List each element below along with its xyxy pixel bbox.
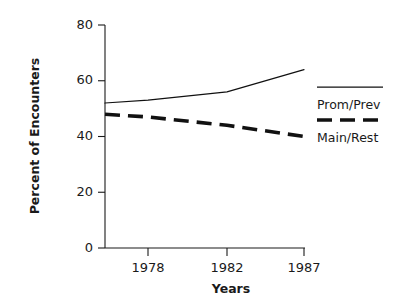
legend-label-prom-prev: Prom/Prev — [317, 97, 381, 112]
series-line-prom-prev — [105, 70, 304, 103]
x-tick-label-1982: 1982 — [210, 260, 243, 275]
line-chart: 80 60 40 20 0 1978 1982 1987 Years Perce… — [0, 0, 397, 308]
series-line-main-rest — [105, 114, 304, 136]
x-tick-label-1978: 1978 — [131, 260, 164, 275]
y-tick-label-80: 80 — [76, 17, 93, 32]
y-tick-label-20: 20 — [76, 184, 93, 199]
x-tick-label-1987: 1987 — [287, 260, 320, 275]
chart-canvas: 80 60 40 20 0 1978 1982 1987 Years Perce… — [0, 0, 397, 308]
legend: Prom/Prev Main/Rest — [317, 87, 383, 145]
legend-label-main-rest: Main/Rest — [317, 130, 378, 145]
y-axis-ticks — [98, 25, 105, 248]
y-tick-label-0: 0 — [85, 240, 93, 255]
y-tick-label-60: 60 — [76, 72, 93, 87]
y-axis-title: Percent of Encounters — [27, 58, 42, 215]
y-tick-label-40: 40 — [76, 128, 93, 143]
x-axis-ticks — [148, 248, 304, 256]
x-axis-title: Years — [211, 281, 250, 296]
